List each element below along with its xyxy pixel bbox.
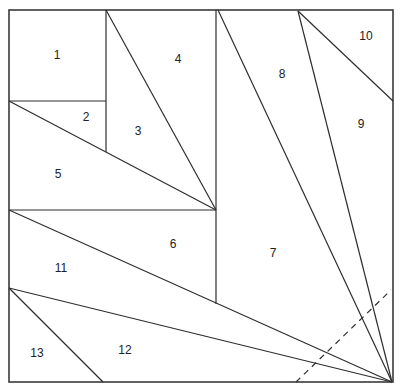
seam-12-13-diagonal xyxy=(9,288,103,382)
piece-labels: 12345678910111213 xyxy=(30,29,373,360)
seam-8-9-diagonal xyxy=(298,11,392,382)
quilt-block-diagram: 12345678910111213 xyxy=(0,0,401,386)
seam-2-5-diagonal xyxy=(9,101,216,210)
piece-label-11: 11 xyxy=(55,261,68,275)
piece-label-6: 6 xyxy=(170,237,177,251)
block-outline xyxy=(9,10,393,382)
piece-label-5: 5 xyxy=(55,167,62,181)
piece-label-4: 4 xyxy=(175,52,182,66)
piece-label-10: 10 xyxy=(359,29,373,43)
fold-line-dashed xyxy=(296,290,391,382)
seam-3-4-diagonal xyxy=(106,10,216,210)
seam-7-8-diagonal xyxy=(218,10,392,382)
piece-label-1: 1 xyxy=(54,48,61,62)
seam-11-12-diagonal xyxy=(9,288,392,382)
piece-label-2: 2 xyxy=(83,110,90,124)
piece-label-7: 7 xyxy=(270,246,277,260)
seam-9-10-diagonal xyxy=(298,11,393,101)
piece-label-9: 9 xyxy=(358,117,365,131)
seam-11-6-diagonal xyxy=(9,210,392,382)
piece-label-12: 12 xyxy=(118,343,132,357)
piece-label-13: 13 xyxy=(30,346,44,360)
piece-label-3: 3 xyxy=(135,124,142,138)
piece-label-8: 8 xyxy=(279,67,286,81)
